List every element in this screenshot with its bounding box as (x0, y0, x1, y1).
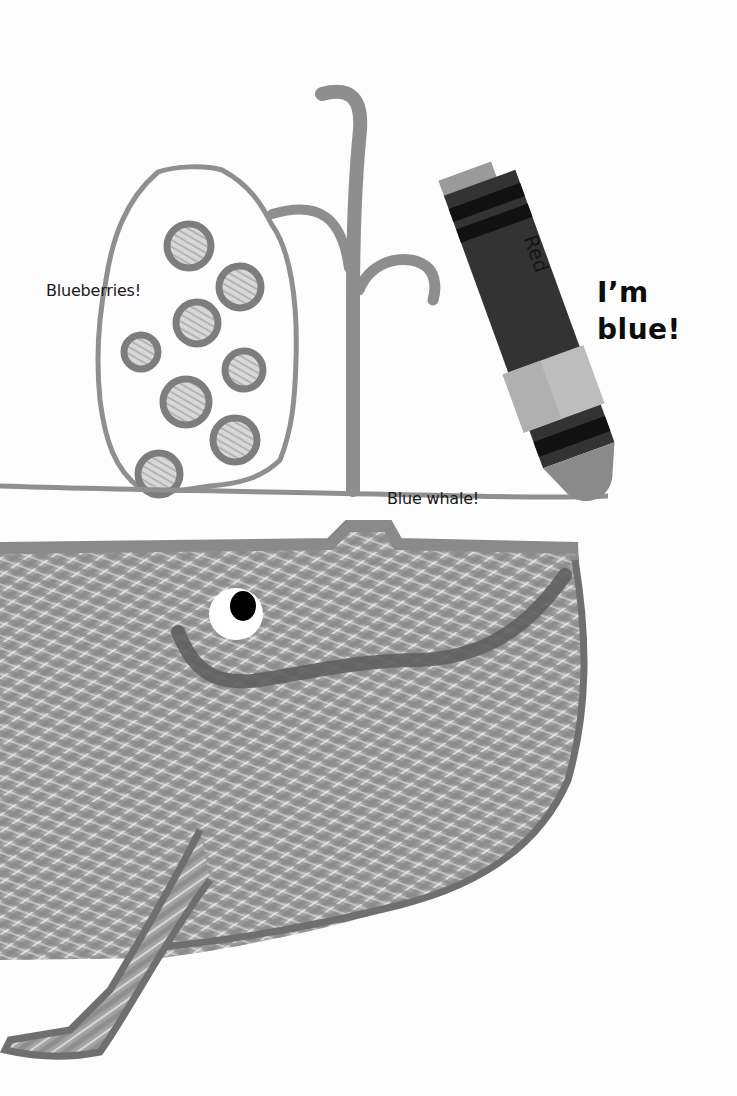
water-spout (272, 92, 435, 490)
blue-whale-label: Blue whale! (387, 489, 479, 508)
blue-whale (0, 522, 584, 1056)
blueberries (124, 224, 263, 495)
berry (167, 224, 211, 268)
book-page: Red Blueberries! Blue whale! I’m blue! (0, 0, 737, 1096)
berry (176, 302, 218, 344)
horizon-line (0, 486, 608, 497)
whale-eye (209, 588, 263, 640)
crayon-speech: I’m blue! (597, 274, 681, 348)
speech-line-1: I’m (597, 274, 681, 311)
berry (163, 379, 209, 425)
berry (213, 418, 257, 462)
berry (124, 335, 158, 369)
blueberries-label: Blueberries! (46, 281, 141, 300)
speech-line-2: blue! (597, 311, 681, 348)
berry (225, 351, 263, 389)
berry (219, 266, 261, 308)
illustration: Red (0, 0, 737, 1096)
